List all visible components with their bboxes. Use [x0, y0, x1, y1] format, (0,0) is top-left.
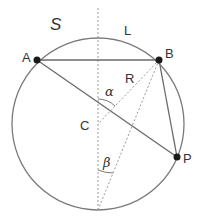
point-p — [174, 154, 181, 161]
label-beta: β — [102, 155, 111, 170]
label-b: B — [165, 46, 174, 61]
point-a — [34, 57, 41, 64]
label-a: A — [22, 50, 31, 65]
chord-ap — [37, 60, 177, 157]
geometry-diagram: S A L B R α C β P — [0, 0, 202, 220]
angle-alpha-arc — [98, 99, 115, 106]
label-r: R — [125, 71, 134, 86]
label-l: L — [124, 23, 131, 38]
label-c: C — [80, 118, 89, 133]
label-s: S — [50, 15, 62, 34]
label-alpha: α — [105, 84, 114, 99]
angle-beta-arc — [98, 170, 113, 173]
point-b — [156, 57, 163, 64]
label-p: P — [183, 151, 192, 166]
